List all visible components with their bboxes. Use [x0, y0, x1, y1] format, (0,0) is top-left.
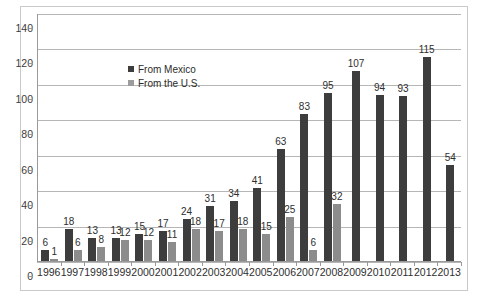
bar-value-label: 54	[439, 153, 461, 163]
bars-layer: 6118613813121512171124183117341841156325…	[38, 14, 461, 261]
y-axis-tick-mark	[29, 170, 33, 171]
bar-value-label: 31	[199, 194, 221, 204]
bar-chart: 020406080100120140 611861381312151217112…	[0, 0, 482, 303]
bar-group: 1711	[156, 14, 180, 261]
x-axis-tick-label: 1999	[108, 266, 132, 278]
bar-from-mexico	[206, 206, 214, 261]
bar-group: 3418	[226, 14, 250, 261]
chart-legend: From Mexico From the U.S.	[128, 62, 200, 90]
bar-from-mexico	[446, 165, 454, 261]
x-axis-tick-label: 1998	[84, 266, 108, 278]
bar-from-mexico	[112, 238, 120, 261]
bar-from-the-us	[50, 259, 58, 261]
legend-item-from-mexico: From Mexico	[128, 62, 200, 76]
bar-from-mexico	[376, 95, 384, 262]
bar-group: 94	[368, 14, 392, 261]
bar-from-mexico	[399, 96, 407, 261]
bar-from-the-us	[262, 234, 270, 261]
bar-group: 836	[297, 14, 321, 261]
bar-group: 2418	[179, 14, 203, 261]
x-axis-tick-label: 2010	[367, 266, 391, 278]
x-axis-tick-label: 1996	[37, 266, 61, 278]
bar-from-mexico	[324, 93, 332, 261]
bar-from-mexico	[135, 234, 143, 261]
bar-from-the-us	[144, 240, 152, 261]
bar-value-label: 41	[246, 176, 268, 186]
bar-value-label: 83	[293, 102, 315, 112]
bar-value-label: 107	[345, 59, 367, 69]
x-axis-tick-label: 2005	[249, 266, 273, 278]
bar-from-the-us	[168, 242, 176, 261]
legend-swatch-icon	[128, 66, 134, 72]
legend-item-from-the-us: From the U.S.	[128, 76, 200, 90]
bar-group: 138	[85, 14, 109, 261]
y-axis-tick-mark	[29, 241, 33, 242]
bar-value-label: 115	[416, 45, 438, 55]
x-axis-tick-mark	[461, 262, 462, 266]
bar-group: 93	[391, 14, 415, 261]
legend-label: From the U.S.	[138, 78, 200, 89]
x-axis-labels: 1996199719981999200020012002200320042005…	[37, 266, 461, 286]
bar-from-mexico	[423, 57, 431, 261]
x-axis-tick-label: 2007	[296, 266, 320, 278]
bar-from-mexico	[352, 71, 360, 261]
x-axis-tick-label: 2012	[414, 266, 438, 278]
x-axis-tick-label: 2003	[202, 266, 226, 278]
y-axis-tick-mark	[29, 205, 33, 206]
bar-from-mexico	[230, 201, 238, 261]
y-axis-tick-mark	[29, 99, 33, 100]
bar-from-the-us	[333, 204, 341, 261]
y-axis-tick-mark	[29, 276, 33, 277]
bar-value-label: 18	[58, 217, 80, 227]
x-axis-tick-label: 2002	[178, 266, 202, 278]
x-axis-tick-label: 2006	[273, 266, 297, 278]
bar-group: 54	[438, 14, 462, 261]
bar-from-the-us	[74, 250, 82, 261]
bar-group: 6325	[274, 14, 298, 261]
bar-group: 3117	[203, 14, 227, 261]
x-axis-tick-label: 2004	[225, 266, 249, 278]
x-axis-tick-label: 2009	[343, 266, 367, 278]
legend-swatch-icon	[128, 80, 134, 86]
x-axis-tick-label: 2013	[437, 266, 461, 278]
bar-from-the-us	[286, 217, 294, 261]
y-axis: 020406080100120140	[0, 14, 33, 262]
legend-label: From Mexico	[138, 64, 196, 75]
bar-value-label: 94	[369, 83, 391, 93]
bar-value-label: 63	[270, 137, 292, 147]
bar-value-label: 93	[392, 84, 414, 94]
bar-from-the-us	[121, 240, 129, 261]
y-axis-tick-mark	[29, 134, 33, 135]
y-axis-tick-mark	[29, 28, 33, 29]
y-axis-tick-mark	[29, 63, 33, 64]
bar-value-label: 24	[176, 207, 198, 217]
bar-from-the-us	[239, 229, 247, 261]
bar-from-the-us	[309, 250, 317, 261]
bar-from-the-us	[97, 247, 105, 261]
bar-group: 9532	[321, 14, 345, 261]
x-axis-tick-label: 1997	[61, 266, 85, 278]
bar-value-label: 17	[152, 219, 174, 229]
plot-area: 6118613813121512171124183117341841156325…	[37, 14, 461, 262]
bar-value-label: 34	[223, 189, 245, 199]
x-axis-tick-label: 2000	[131, 266, 155, 278]
bar-from-the-us	[215, 231, 223, 261]
x-axis-tick-label: 2001	[155, 266, 179, 278]
bar-from-the-us	[192, 229, 200, 261]
x-axis-tick-label: 2011	[390, 266, 414, 278]
bar-group: 115	[415, 14, 439, 261]
bar-value-label: 95	[317, 81, 339, 91]
bar-group: 186	[62, 14, 86, 261]
x-axis-tick-label: 2008	[320, 266, 344, 278]
bar-group: 107	[344, 14, 368, 261]
